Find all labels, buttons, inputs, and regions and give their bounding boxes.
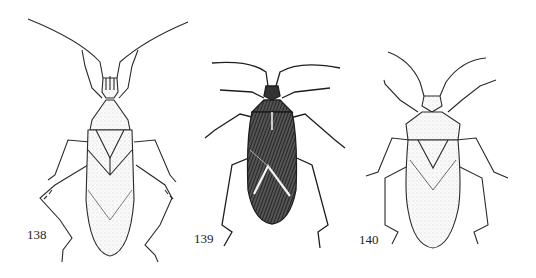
figure-label-140: 140 bbox=[359, 232, 379, 248]
insect-138 bbox=[28, 19, 188, 262]
figure-label-138: 138 bbox=[27, 227, 47, 243]
insect-139 bbox=[205, 62, 345, 248]
figure-label-139: 139 bbox=[194, 231, 214, 247]
insect-illustrations bbox=[0, 0, 536, 278]
insect-plate: 138 139 140 bbox=[0, 0, 536, 278]
insect-140 bbox=[366, 52, 508, 248]
